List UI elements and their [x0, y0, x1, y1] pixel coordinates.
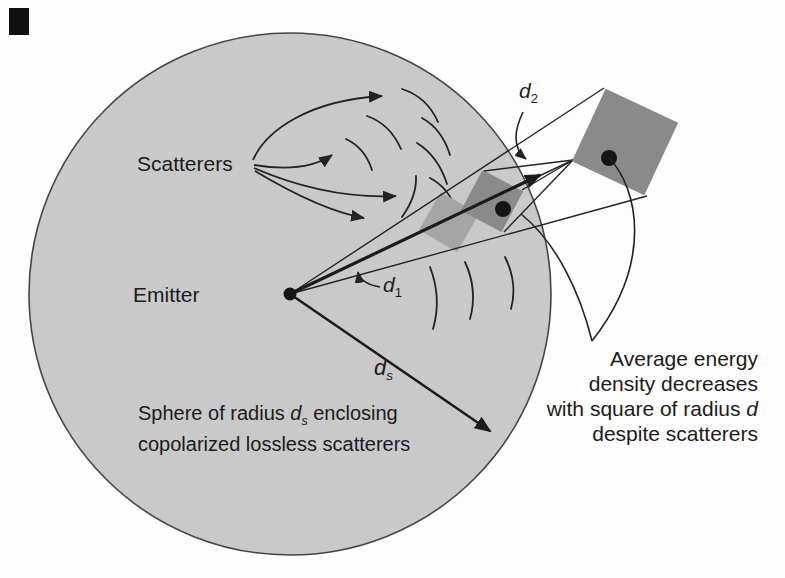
d2-pointer-arrow: [516, 112, 526, 159]
figure-page: Scatterers Emitter d1 d2 ds Sphere of ra…: [0, 0, 785, 578]
sphere-note: Sphere of radius ds enclosing copolarize…: [138, 402, 410, 456]
energy-note-line3: with square of radius d: [547, 396, 758, 421]
emitter-label: Emitter: [133, 283, 200, 307]
frustum-edge: [522, 160, 573, 190]
energy-density-note: Average energy density decreases with sq…: [547, 346, 758, 446]
d2-label: d2: [519, 79, 538, 111]
d1-label: d1: [383, 273, 402, 305]
energy-note-line4: despite scatterers: [547, 421, 758, 446]
ds-label: ds: [374, 356, 393, 388]
emitter-dot: [284, 288, 297, 301]
sphere-note-line1: Sphere of radius ds enclosing: [138, 402, 410, 433]
sphere-note-line2: copolarized lossless scatterers: [138, 433, 410, 456]
scatterer-square-far: [572, 89, 678, 195]
ds-sub: s: [386, 368, 393, 383]
d2-sub: 2: [531, 91, 538, 106]
scatterers-label: Scatterers: [137, 152, 233, 176]
ds-var: d: [374, 355, 386, 380]
energy-note-line1: Average energy: [547, 346, 758, 371]
d1-var: d: [383, 273, 395, 296]
energy-note-line2: density decreases: [547, 371, 758, 396]
sample-point-near: [495, 201, 511, 217]
d2-var: d: [519, 79, 531, 102]
d1-sub: 1: [395, 285, 402, 300]
